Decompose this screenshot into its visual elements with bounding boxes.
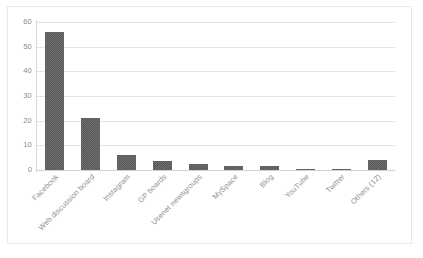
y-tick-label-50: 50 xyxy=(6,43,32,51)
bar-slot xyxy=(109,22,145,170)
bar-slot xyxy=(144,22,180,170)
bar-web-discussion-board xyxy=(81,118,100,170)
x-label-twitter: Twitter xyxy=(325,173,346,194)
bar-instagram xyxy=(117,155,136,170)
x-label-slot: Blog xyxy=(252,170,288,236)
y-tick-label-10: 10 xyxy=(6,142,32,150)
bar-slot xyxy=(288,22,324,170)
y-tick-label-20: 20 xyxy=(6,117,32,125)
bar-slot xyxy=(37,22,73,170)
bar-slot xyxy=(216,22,252,170)
bar-facebook xyxy=(45,32,64,170)
bar-slot xyxy=(73,22,109,170)
y-tick-label-0: 0 xyxy=(6,166,32,174)
bar-slot xyxy=(323,22,359,170)
x-label-blog: Blog xyxy=(259,173,275,189)
plot-area xyxy=(37,22,395,170)
x-label-youtube: YouTube xyxy=(284,173,311,200)
bars-layer xyxy=(37,22,395,170)
x-label-slot: Instagram xyxy=(109,170,145,236)
x-axis-category-labels: Facebook Web discussion board Instagram … xyxy=(37,170,395,236)
y-axis-tick-labels: 60 50 40 30 20 10 0 xyxy=(0,22,32,170)
bar-chart-figure: 60 50 40 30 20 10 0 Facebook xyxy=(0,0,423,258)
y-tick-label-40: 40 xyxy=(6,68,32,76)
x-label-slot: Others (12) xyxy=(359,170,395,236)
bar-slot xyxy=(252,22,288,170)
bar-others xyxy=(368,160,387,170)
x-label-slot: YouTube xyxy=(288,170,324,236)
x-label-myspace: MySpace xyxy=(211,173,239,201)
bar-slot xyxy=(180,22,216,170)
x-label-slot: MySpace xyxy=(216,170,252,236)
x-label-slot: Web discussion board xyxy=(73,170,109,236)
bar-slot xyxy=(359,22,395,170)
y-tick-label-60: 60 xyxy=(6,18,32,26)
bar-gp-boards xyxy=(153,161,172,170)
y-tick-label-30: 30 xyxy=(6,92,32,100)
x-label-slot: Usenet newsgroups xyxy=(180,170,216,236)
